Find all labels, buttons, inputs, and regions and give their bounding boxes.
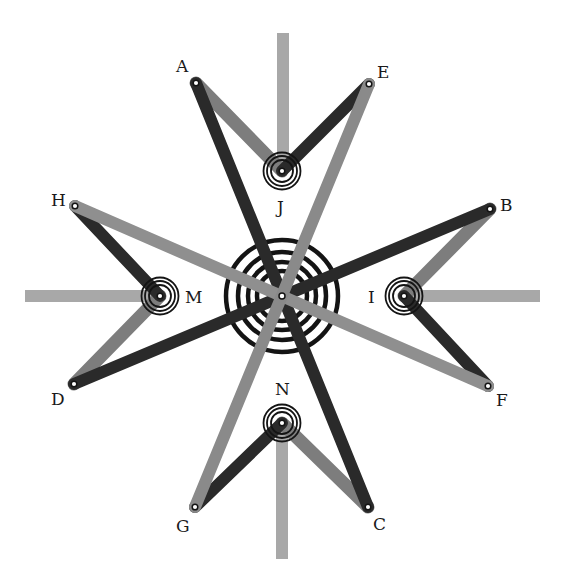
pivot-b <box>487 206 493 212</box>
pivot-center <box>279 293 285 299</box>
label-b: B <box>500 195 513 215</box>
label-j: J <box>275 197 284 217</box>
linkage-diagram: A E B F C G D H J I N M <box>0 0 565 579</box>
label-e: E <box>377 62 389 82</box>
label-m: M <box>185 287 202 307</box>
pivot-g <box>192 504 198 510</box>
pivot-j <box>279 168 285 174</box>
label-a: A <box>175 56 189 76</box>
label-h: H <box>51 190 66 210</box>
label-i: I <box>368 287 375 307</box>
label-g: G <box>176 516 190 536</box>
diagram-canvas: A E B F C G D H J I N M <box>0 0 565 579</box>
pivot-m <box>157 293 163 299</box>
fixed-arm-n-down <box>276 423 288 559</box>
fixed-arm-m-left <box>25 290 160 302</box>
label-n: N <box>275 379 290 399</box>
pivot-c <box>365 504 371 510</box>
label-f: F <box>496 390 508 410</box>
pivot-d <box>71 381 77 387</box>
pivot-f <box>485 383 491 389</box>
pivot-n <box>279 420 285 426</box>
pivot-i <box>401 293 407 299</box>
fixed-arm-i-right <box>404 290 540 302</box>
pivot-e <box>366 81 372 87</box>
label-c: C <box>373 514 386 534</box>
label-d: D <box>51 389 65 409</box>
pivot-h <box>72 203 78 209</box>
pivot-a <box>193 80 199 86</box>
fixed-arm-j-up <box>277 33 289 171</box>
